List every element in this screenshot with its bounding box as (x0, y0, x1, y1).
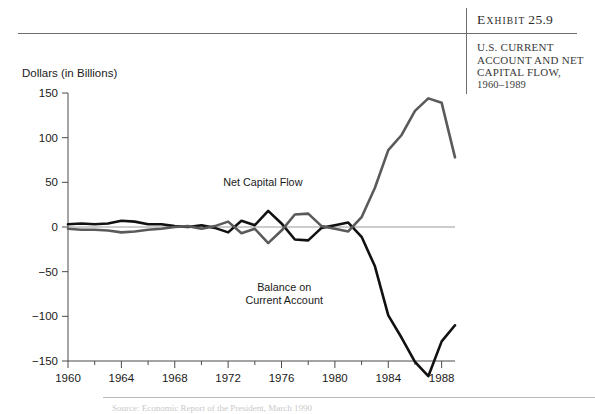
line-chart: 150100500−50−100−150 1960196419681972197… (0, 60, 470, 390)
y-tick-label: −150 (32, 355, 58, 367)
exhibit-word-rest: XHIBIT (486, 16, 526, 26)
y-tick-label: 150 (39, 87, 58, 99)
series-annotation-label: Net Capital Flow (223, 176, 302, 188)
x-tick-label: 1968 (162, 372, 188, 384)
exhibit-title-line-3: CAPITAL FLOW, (477, 66, 592, 79)
y-axis-ticks: 150100500−50−100−150 (32, 87, 68, 367)
y-tick-label: −100 (32, 310, 58, 322)
x-tick-label: 1988 (429, 372, 455, 384)
y-tick-label: 50 (45, 176, 58, 188)
chart-canvas: 150100500−50−100−150 1960196419681972197… (0, 60, 470, 390)
series-annotation-label: Current Account (245, 294, 322, 306)
exhibit-title-line-2: ACCOUNT AND NET (477, 54, 592, 67)
exhibit-title: U.S. CURRENT ACCOUNT AND NET CAPITAL FLO… (477, 41, 592, 91)
x-tick-label: 1976 (269, 372, 295, 384)
footer-rule (103, 397, 595, 398)
exhibit-number-heading: EXHIBIT25.9 (477, 12, 587, 28)
x-tick-label: 1972 (215, 372, 241, 384)
exhibit-number: 25.9 (525, 12, 553, 27)
exhibit-page: EXHIBIT25.9 U.S. CURRENT ACCOUNT AND NET… (0, 0, 595, 414)
series-annotation-label: Balance on (257, 281, 311, 293)
exhibit-title-years: 1960–1989 (477, 79, 592, 92)
y-tick-label: −50 (38, 266, 58, 278)
y-tick-label: 100 (39, 132, 58, 144)
x-tick-label: 1980 (322, 372, 348, 384)
x-tick-label: 1964 (109, 372, 135, 384)
header-rule (18, 33, 577, 34)
series-paths (68, 98, 455, 376)
x-tick-label: 1984 (375, 372, 401, 384)
exhibit-title-line-1: U.S. CURRENT (477, 41, 592, 54)
exhibit-word-initial: E (477, 12, 486, 27)
y-tick-label: 0 (52, 221, 58, 233)
x-tick-label: 1960 (55, 372, 81, 384)
x-axis-ticks: 19601964196819721976198019841988 (55, 361, 454, 384)
source-note: Source: Economic Report of the President… (112, 403, 582, 414)
